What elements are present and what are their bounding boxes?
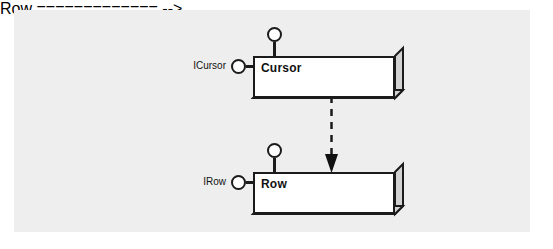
lollipop-circle-icursor[interactable] [231,59,246,74]
lollipop-circle-cursor-top[interactable] [267,27,282,42]
component-row-label: Row [261,177,287,191]
lollipop-stem-icursor [246,65,255,68]
lollipop-stem-row-top [273,158,276,174]
uml-component-diagram-screenshot: Cursor ICursor Row ============= --> Row… [0,0,553,249]
lollipop-stem-cursor-top [273,42,276,58]
lollipop-stem-irow [246,181,255,184]
interface-label-irow: IRow [158,176,226,187]
interface-label-icursor: ICursor [158,60,226,71]
component-cursor-label: Cursor [261,61,302,75]
lollipop-circle-row-top[interactable] [267,143,282,158]
lollipop-circle-irow[interactable] [231,175,246,190]
